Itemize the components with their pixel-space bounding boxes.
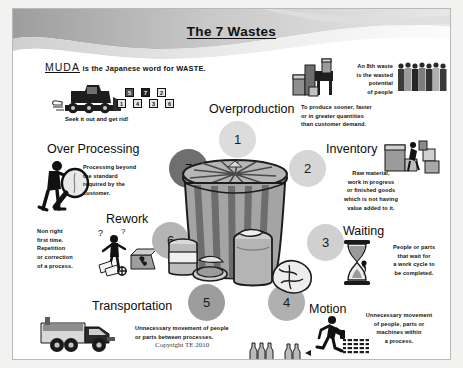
slide-page: The 7 Wastes MUDA is the Japanese word f… bbox=[12, 8, 451, 360]
waste-desc-over-processing: Processing beyond the standard required … bbox=[83, 163, 151, 198]
muda-block-bottom-0: 1 bbox=[117, 99, 126, 108]
muda-line: MUDA is the Japanese word for WASTE. bbox=[45, 61, 206, 73]
muda-term: MUDA bbox=[45, 61, 80, 73]
waste-label-rework: Rework bbox=[106, 212, 148, 226]
muda-block-top-2: 2 bbox=[157, 88, 166, 97]
hourglass-icon bbox=[341, 239, 375, 287]
waste-desc-rework: Non right first time. Repetition or corr… bbox=[37, 227, 95, 270]
eighth-waste-text: An 8th waste is the wasted potential of … bbox=[331, 62, 393, 97]
waste-label-inventory: Inventory bbox=[326, 142, 377, 156]
muda-block-bottom-2: 3 bbox=[149, 99, 158, 108]
litter-paper-icon bbox=[269, 255, 317, 297]
waste-circle-1: 1 bbox=[219, 121, 256, 158]
muda-sentence: is the Japanese word for WASTE. bbox=[83, 64, 206, 73]
truck-icon bbox=[37, 307, 129, 355]
page-title: The 7 Wastes bbox=[13, 24, 450, 39]
waste-circle-2: 2 bbox=[289, 150, 326, 187]
waste-desc-inventory: Raw material, work in progress or finish… bbox=[331, 169, 411, 212]
waste-desc-transportation: Unnecessary movement of people or parts … bbox=[135, 324, 265, 341]
boxes-stack-icon bbox=[291, 57, 339, 99]
waste-label-over-processing: Over Processing bbox=[47, 142, 139, 156]
litter-cans-icon bbox=[163, 234, 233, 290]
waste-label-waiting: Waiting bbox=[343, 224, 384, 238]
svg-text:?: ? bbox=[121, 227, 126, 236]
waste-label-overproduction: Overproduction bbox=[209, 102, 294, 116]
muda-block-top-0: 5 bbox=[125, 88, 134, 97]
muda-block-top-1: 7 bbox=[141, 88, 150, 97]
waste-desc-waiting: People or parts that wait for a work cyc… bbox=[375, 243, 451, 278]
muda-caption: Seek it out and get rid! bbox=[65, 116, 129, 122]
muda-block-bottom-3: 6 bbox=[165, 99, 174, 108]
machine-icon bbox=[343, 339, 369, 355]
people-group-icon bbox=[396, 59, 448, 93]
copyright-text: Copyright TE 2010 bbox=[155, 341, 209, 349]
muda-block-bottom-1: 4 bbox=[133, 99, 142, 108]
svg-text:?: ? bbox=[98, 228, 103, 238]
bottles-icon bbox=[249, 339, 311, 360]
waste-desc-overproduction: To produce sooner, faster or in greater … bbox=[301, 103, 383, 129]
slide-frame: The 7 Wastes MUDA is the Japanese word f… bbox=[0, 0, 463, 368]
